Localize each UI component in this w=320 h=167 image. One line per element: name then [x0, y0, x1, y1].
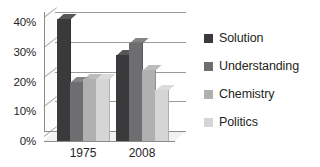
bar-front-face	[70, 82, 84, 142]
bar	[129, 43, 142, 141]
legend-swatch-icon	[204, 62, 213, 71]
bar-front-face	[142, 70, 156, 141]
bar-front-face	[155, 90, 169, 141]
bar	[57, 19, 70, 141]
bar-front-face	[57, 19, 71, 141]
x-axis-tick-label: 1975	[53, 146, 113, 160]
bar	[70, 82, 83, 142]
bar-front-face	[116, 55, 130, 141]
x-axis-tick-label: 2008	[112, 146, 172, 160]
bar	[116, 55, 129, 141]
plot-area: 0%10%20%30%40% 19752008	[0, 0, 200, 167]
legend-item[interactable]: Understanding	[204, 52, 320, 80]
legend-item[interactable]: Politics	[204, 108, 320, 136]
bar-front-face	[129, 43, 143, 141]
chart-legend: SolutionUnderstandingChemistryPolitics	[204, 24, 320, 136]
legend-item[interactable]: Chemistry	[204, 80, 320, 108]
bar	[142, 70, 155, 141]
bar-front-face	[83, 79, 97, 141]
bar	[83, 79, 96, 141]
bar-series-group	[0, 0, 200, 167]
legend-item[interactable]: Solution	[204, 24, 320, 52]
legend-item-label: Politics	[219, 115, 258, 129]
bar-chart: 0%10%20%30%40% 19752008 SolutionUndersta…	[0, 0, 320, 167]
bar	[155, 90, 168, 141]
legend-swatch-icon	[204, 90, 213, 99]
legend-item-label: Solution	[219, 31, 263, 45]
legend-item-label: Chemistry	[219, 87, 274, 101]
legend-item-label: Understanding	[219, 59, 299, 73]
bar-front-face	[96, 79, 110, 141]
legend-swatch-icon	[204, 118, 213, 127]
bar	[96, 79, 109, 141]
legend-swatch-icon	[204, 34, 213, 43]
